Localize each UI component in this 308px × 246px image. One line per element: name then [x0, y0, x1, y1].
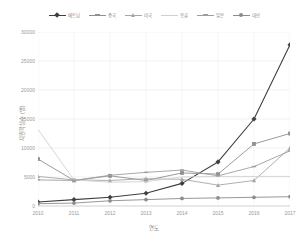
x-tick-label-2: 2012 — [104, 210, 115, 216]
legend-item-2[interactable]: 미국 — [125, 12, 152, 18]
legend-item-4[interactable]: 일본 — [197, 12, 224, 18]
legend-marker-square-icon — [95, 14, 100, 16]
series-1 — [38, 132, 290, 183]
legend-swatch-3 — [161, 15, 178, 16]
x-tick-label-5: 2015 — [212, 210, 223, 216]
legend-label-5: 대만 — [252, 12, 260, 18]
data-point — [180, 171, 184, 175]
data-point — [108, 199, 112, 203]
series-line-3 — [38, 129, 290, 182]
data-point — [72, 201, 76, 205]
data-point — [38, 179, 40, 180]
data-point — [144, 198, 148, 202]
y-tick-label-2: 10000 — [21, 145, 35, 151]
legend-label-0: 베트남 — [68, 12, 80, 18]
series-line-0 — [38, 45, 290, 202]
legend-label-1: 중국 — [108, 12, 116, 18]
legend-swatch-4 — [197, 15, 214, 16]
y-tick-label-6: 30000 — [21, 29, 35, 35]
x-tick-label-0: 2010 — [32, 210, 43, 216]
y-tick-label-5: 25000 — [21, 58, 35, 64]
data-point — [288, 132, 290, 136]
y-axis-title: 지원학생수 (명) — [18, 105, 26, 140]
data-point — [144, 172, 148, 173]
data-point — [216, 196, 220, 200]
legend-item-1[interactable]: 중국 — [89, 12, 116, 18]
legend-marker-diamond-icon — [54, 12, 60, 18]
legend-item-0[interactable]: 베트남 — [49, 12, 80, 18]
x-tick-label-1: 2011 — [69, 210, 80, 216]
legend-swatch-1 — [89, 15, 106, 16]
data-point — [216, 175, 220, 176]
x-tick-label-3: 2013 — [140, 210, 151, 216]
data-point — [180, 197, 184, 201]
data-point — [252, 166, 256, 167]
chart-legend: 베트남중국미국몽골일본대만 — [0, 8, 308, 22]
series-line-1 — [38, 134, 290, 181]
data-point — [180, 169, 184, 170]
data-point — [288, 150, 290, 151]
series-3 — [38, 129, 290, 182]
data-point — [179, 181, 184, 186]
y-tick-label-4: 20000 — [21, 87, 35, 93]
chart-canvas — [38, 32, 290, 207]
data-point — [252, 195, 256, 199]
data-point — [252, 142, 256, 146]
legend-item-3[interactable]: 몽골 — [161, 12, 188, 18]
legend-label-4: 일본 — [216, 12, 224, 18]
legend-label-3: 몽골 — [180, 12, 188, 18]
legend-swatch-5 — [233, 15, 250, 16]
legend-swatch-0 — [49, 15, 66, 16]
legend-marker-circle-icon — [239, 13, 243, 17]
data-point — [108, 175, 112, 176]
legend-marker-triangle-icon — [131, 13, 135, 17]
data-point — [143, 191, 148, 196]
legend-item-5[interactable]: 대만 — [233, 12, 260, 18]
legend-swatch-2 — [125, 15, 142, 16]
legend-label-2: 미국 — [144, 12, 152, 18]
x-tick-label-7: 2017 — [284, 210, 295, 216]
chart-root: 베트남중국미국몽골일본대만 05000100001500020000250003… — [0, 0, 308, 246]
data-point — [38, 157, 40, 161]
legend-marker-dash-icon — [203, 14, 208, 16]
x-axis-tick-labels: 20102011201220132014201520162017 — [38, 209, 290, 221]
y-tick-label-1: 5000 — [24, 174, 35, 180]
data-point — [288, 195, 290, 199]
x-tick-label-6: 2016 — [248, 210, 259, 216]
plot-area — [38, 32, 290, 206]
y-tick-label-0: 0 — [32, 203, 35, 209]
x-axis-title: 연도 — [0, 224, 308, 232]
x-tick-label-4: 2014 — [176, 210, 187, 216]
data-point — [72, 180, 76, 181]
